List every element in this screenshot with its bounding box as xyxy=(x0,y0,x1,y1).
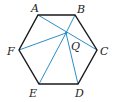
label-e: E xyxy=(28,87,37,100)
hexagon-outline xyxy=(19,15,97,84)
label-f: F xyxy=(6,45,15,58)
segment-ac xyxy=(38,15,97,50)
hexagon-diagram: ABCDEFQ xyxy=(0,0,114,102)
segment-qe xyxy=(39,33,66,84)
label-c: C xyxy=(100,45,109,58)
point-q-dot xyxy=(65,32,67,34)
label-a: A xyxy=(30,2,39,15)
label-b: B xyxy=(76,3,85,16)
label-q: Q xyxy=(71,40,80,53)
blue-segments xyxy=(19,15,97,84)
label-d: D xyxy=(74,87,84,100)
vertex-labels: ABCDEFQ xyxy=(6,2,109,100)
segment-qb xyxy=(66,15,75,33)
